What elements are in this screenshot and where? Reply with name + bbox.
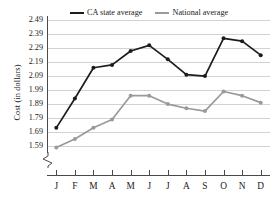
y-axis-tick-labels: 2.492.392.292.192.091.991.891.791.691.59 bbox=[0, 0, 46, 204]
data-point-marker bbox=[166, 102, 170, 106]
x-axis-tick-mark bbox=[112, 170, 113, 176]
y-axis-line bbox=[47, 16, 48, 153]
y-axis-tick-label: 2.09 bbox=[29, 72, 43, 80]
y-axis-tick-label: 1.59 bbox=[29, 142, 43, 150]
x-axis-tick-label: M bbox=[89, 182, 97, 191]
x-axis-tick-label: F bbox=[72, 182, 77, 191]
series-line bbox=[56, 91, 260, 147]
x-axis-tick-label: J bbox=[147, 182, 151, 191]
data-point-marker bbox=[129, 94, 133, 98]
x-axis-tick-mark bbox=[93, 170, 94, 176]
x-axis-tick-mark bbox=[224, 170, 225, 176]
data-point-marker bbox=[222, 36, 226, 40]
y-axis-tick-label: 1.89 bbox=[29, 100, 43, 108]
x-axis-tick-mark bbox=[242, 170, 243, 176]
data-point-marker bbox=[259, 53, 263, 57]
series-lines bbox=[47, 16, 270, 153]
series-line bbox=[56, 38, 260, 127]
data-point-marker bbox=[203, 109, 207, 113]
data-point-marker bbox=[184, 73, 188, 77]
data-point-marker bbox=[91, 66, 95, 70]
x-axis-tick-mark bbox=[149, 170, 150, 176]
x-axis-tick-mark bbox=[75, 170, 76, 176]
data-point-marker bbox=[110, 117, 114, 121]
data-point-marker bbox=[54, 145, 58, 149]
line-chart: CA state average National average Cost (… bbox=[0, 0, 277, 204]
x-axis-tick-labels: JFMAMJJASOND bbox=[47, 182, 270, 200]
legend-line-swatch-icon bbox=[70, 12, 84, 14]
data-point-marker bbox=[129, 49, 133, 53]
data-point-marker bbox=[240, 39, 244, 43]
x-axis-tick-mark bbox=[131, 170, 132, 176]
y-axis-tick-label: 2.19 bbox=[29, 58, 43, 66]
data-point-marker bbox=[147, 43, 151, 47]
x-axis-tick-mark bbox=[186, 170, 187, 176]
y-axis-tick-label: 2.39 bbox=[29, 30, 43, 38]
axis-break-icon bbox=[41, 152, 55, 168]
data-point-marker bbox=[54, 126, 58, 130]
data-point-marker bbox=[259, 101, 263, 105]
y-axis-tick-label: 1.79 bbox=[29, 114, 43, 122]
x-axis-tick-label: J bbox=[54, 182, 58, 191]
x-axis-tick-label: A bbox=[109, 182, 116, 191]
data-point-marker bbox=[203, 74, 207, 78]
legend-line-swatch-icon bbox=[155, 12, 169, 14]
y-axis-tick-label: 1.99 bbox=[29, 86, 43, 94]
x-axis-tick-label: J bbox=[166, 182, 170, 191]
x-axis-tick-label: S bbox=[202, 182, 207, 191]
x-axis-tick-label: N bbox=[239, 182, 246, 191]
x-axis-tick-label: D bbox=[257, 182, 264, 191]
y-axis-tick-label: 2.29 bbox=[29, 44, 43, 52]
x-axis-tick-mark bbox=[56, 170, 57, 176]
data-point-marker bbox=[240, 94, 244, 98]
data-point-marker bbox=[184, 106, 188, 110]
x-axis-tick-label: O bbox=[220, 182, 227, 191]
data-point-marker bbox=[147, 94, 151, 98]
x-axis-tick-mark bbox=[261, 170, 262, 176]
x-axis-tick-mark bbox=[205, 170, 206, 176]
y-axis-tick-label: 2.49 bbox=[29, 16, 43, 24]
data-point-marker bbox=[110, 63, 114, 67]
x-axis-tick-label: M bbox=[126, 182, 134, 191]
data-point-marker bbox=[73, 137, 77, 141]
x-axis-tick-label: A bbox=[183, 182, 190, 191]
plot-area bbox=[47, 16, 270, 153]
data-point-marker bbox=[222, 89, 226, 93]
y-axis-tick-label: 1.69 bbox=[29, 128, 43, 136]
data-point-marker bbox=[166, 57, 170, 61]
x-axis-line bbox=[47, 175, 270, 176]
data-point-marker bbox=[73, 96, 77, 100]
x-axis-tick-mark bbox=[168, 170, 169, 176]
data-point-marker bbox=[91, 126, 95, 130]
